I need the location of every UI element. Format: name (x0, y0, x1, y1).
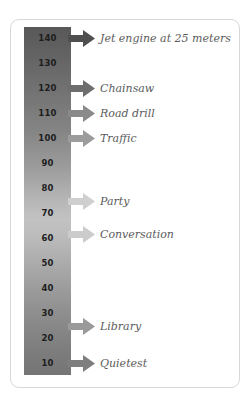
arrow-icon-library (68, 318, 95, 335)
arrow-icon-party (68, 193, 95, 210)
marker-label-quietest: Quietest (100, 357, 147, 370)
marker-label-chainsaw: Chainsaw (100, 82, 154, 95)
marker-label-jet-engine: Jet engine at 25 meters (100, 32, 231, 45)
scale-tick-20: 20 (24, 333, 71, 343)
arrow-right-icon (68, 105, 95, 122)
scale-tick-10: 10 (24, 358, 71, 368)
arrow-icon-chainsaw (68, 80, 95, 97)
scale-tick-60: 60 (24, 233, 71, 243)
scale-tick-70: 70 (24, 208, 71, 218)
arrow-icon-quietest (68, 355, 95, 372)
decibel-gradient-bar (24, 27, 71, 375)
marker-label-party: Party (100, 195, 129, 208)
arrow-right-icon (68, 130, 95, 147)
arrow-right-icon (68, 193, 95, 210)
noise-scale-figure: 140 130 120 110 100 90 80 70 60 50 40 30… (0, 0, 249, 400)
marker-label-road-drill: Road drill (100, 107, 155, 120)
arrow-right-icon (68, 355, 95, 372)
scale-tick-110: 110 (24, 108, 71, 118)
marker-label-conversation: Conversation (100, 228, 174, 241)
scale-tick-140: 140 (24, 33, 71, 43)
marker-label-traffic: Traffic (100, 132, 137, 145)
arrow-right-icon (68, 30, 95, 47)
arrow-icon-traffic (68, 130, 95, 147)
marker-label-library: Library (100, 320, 141, 333)
arrow-icon-road-drill (68, 105, 95, 122)
scale-tick-130: 130 (24, 58, 71, 68)
arrow-right-icon (68, 318, 95, 335)
scale-tick-50: 50 (24, 258, 71, 268)
scale-tick-100: 100 (24, 133, 71, 143)
arrow-right-icon (68, 80, 95, 97)
scale-tick-30: 30 (24, 308, 71, 318)
arrow-icon-conversation (68, 226, 95, 243)
arrow-right-icon (68, 226, 95, 243)
scale-tick-80: 80 (24, 183, 71, 193)
scale-tick-40: 40 (24, 283, 71, 293)
scale-tick-90: 90 (24, 158, 71, 168)
scale-tick-120: 120 (24, 83, 71, 93)
arrow-icon-jet-engine (68, 30, 95, 47)
